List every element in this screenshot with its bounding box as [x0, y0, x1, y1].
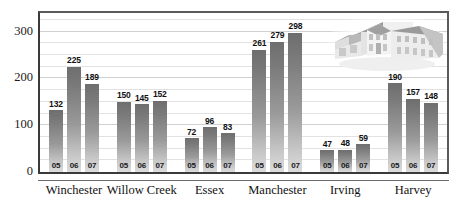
bar: 06	[135, 104, 149, 172]
bar-year-label: 07	[153, 162, 167, 170]
y-axis-tick-label: 0	[0, 165, 33, 178]
bar-year-label: 07	[424, 162, 438, 170]
bar-value-label: 59	[351, 134, 375, 143]
bar-year-label: 05	[320, 162, 334, 170]
bar: 05	[49, 110, 63, 172]
gridline-minor	[40, 54, 447, 55]
gridline-minor	[40, 19, 447, 20]
bar-year-label: 07	[85, 162, 99, 170]
bar-chart: 0100200300 05132062250718905150061450715…	[0, 0, 464, 200]
bar: 05	[117, 102, 131, 172]
bar: 06	[338, 150, 352, 172]
bar-year-label: 06	[67, 162, 81, 170]
bar-value-label: 190	[383, 73, 407, 82]
bar-value-label: 279	[265, 31, 289, 40]
gridline-minor	[40, 101, 447, 102]
gridline-minor	[40, 42, 447, 43]
bar-year-label: 06	[203, 162, 217, 170]
bar: 05	[185, 138, 199, 172]
gridline-minor	[40, 66, 447, 67]
bar-value-label: 261	[247, 39, 271, 48]
bar: 07	[221, 133, 235, 172]
bar: 06	[67, 67, 81, 172]
gridline-minor	[40, 148, 447, 149]
bar: 07	[85, 84, 99, 172]
bar-year-label: 06	[270, 162, 284, 170]
category-separator-line	[38, 180, 449, 181]
bar: 06	[270, 42, 284, 172]
bar-year-label: 05	[49, 162, 63, 170]
bar: 05	[388, 83, 402, 172]
bar: 06	[406, 99, 420, 172]
bar-year-label: 07	[288, 162, 302, 170]
bar: 05	[252, 50, 266, 172]
bar: 07	[424, 103, 438, 172]
bar: 07	[153, 101, 167, 172]
category-label: Harvey	[367, 182, 459, 198]
bar-year-label: 05	[252, 162, 266, 170]
bar-value-label: 152	[148, 90, 172, 99]
plot-area: 0513206225071890515006145071520572069607…	[38, 11, 449, 174]
bar: 06	[203, 127, 217, 172]
y-axis-tick-label: 100	[0, 118, 33, 131]
bar-year-label: 07	[221, 162, 235, 170]
bar-value-label: 225	[62, 56, 86, 65]
y-axis-tick-label: 300	[0, 25, 33, 38]
gridline-minor	[40, 113, 447, 114]
bar-value-label: 72	[180, 128, 204, 137]
bar: 07	[356, 144, 370, 172]
bar-value-label: 132	[44, 100, 68, 109]
gridline-minor	[40, 89, 447, 90]
gridline-minor	[40, 136, 447, 137]
bar-year-label: 05	[117, 162, 131, 170]
bar-value-label: 83	[216, 123, 240, 132]
bar-year-label: 06	[135, 162, 149, 170]
gridline-minor	[40, 159, 447, 160]
bar-year-label: 06	[338, 162, 352, 170]
gridline-major	[40, 124, 447, 125]
gridline-major	[40, 31, 447, 32]
bar-value-label: 148	[419, 92, 443, 101]
y-axis-tick-label: 200	[0, 71, 33, 84]
bar-value-label: 298	[283, 22, 307, 31]
bar-year-label: 06	[406, 162, 420, 170]
bar-year-label: 05	[185, 162, 199, 170]
bar: 07	[288, 33, 302, 172]
bar: 05	[320, 150, 334, 172]
bar-value-label: 189	[80, 73, 104, 82]
bar-year-label: 07	[356, 162, 370, 170]
bar-year-label: 05	[388, 162, 402, 170]
